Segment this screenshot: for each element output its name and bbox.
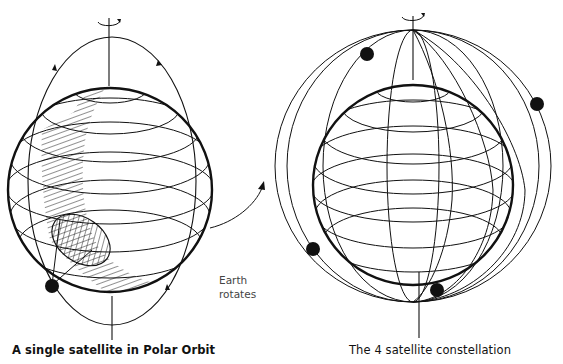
satellite-2 [530,97,544,111]
right-globe-group [275,13,551,338]
satellite [45,279,59,293]
satellite-4 [430,283,444,297]
left-caption: A single satellite in Polar Orbit [12,343,215,357]
earth-rotates-label: Earth rotates [219,273,256,301]
earth-rotates-line2: rotates [219,287,256,301]
orbit-arrow-icon [52,64,57,71]
satellite-3 [306,242,320,256]
right-globe-outline [313,85,513,285]
left-globe-group [6,18,214,340]
coverage-swath [41,82,160,298]
arrowhead-icon [258,181,265,190]
right-caption: The 4 satellite constellation [349,343,511,357]
latitude-lines [311,74,515,272]
satellite-1 [360,47,374,61]
earth-rotates-arrow [210,188,262,228]
diagram-canvas [0,0,563,364]
earth-rotates-line1: Earth [219,273,256,287]
